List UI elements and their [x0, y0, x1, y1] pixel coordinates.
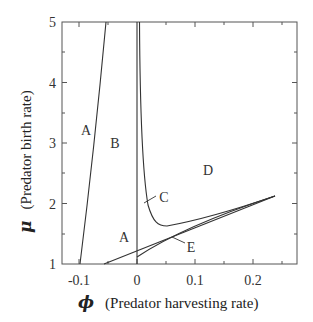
x-axis-label: ϕ (Predator harvesting rate): [78, 292, 258, 312]
region-label-c: C: [159, 190, 168, 205]
mu-symbol: μ: [15, 221, 35, 233]
x-axis-text: (Predator harvesting rate): [105, 295, 258, 312]
y-axis-text: (Predator birth rate): [18, 90, 35, 209]
y-tick-label: 1: [49, 257, 56, 272]
bifurcation-chart: -0.1 0 0.1 0.2 1 2 3 4 5 A B C D A E ϕ (…: [0, 0, 313, 322]
y-axis-label: μ (Predator birth rate): [15, 90, 35, 233]
y-tick-label: 2: [49, 197, 56, 212]
e-leader-line: [172, 237, 185, 243]
c-leader-line: [144, 196, 156, 203]
y-ticks: [62, 52, 297, 234]
y-tick-label: 4: [49, 76, 56, 91]
plot-frame: [62, 22, 297, 264]
region-label-d: D: [203, 163, 213, 178]
region-label-a-lower: A: [119, 230, 130, 245]
region-label-e: E: [187, 240, 196, 255]
x-tick-label: 0: [134, 273, 141, 288]
phi-symbol: ϕ: [78, 292, 94, 312]
curve-e: [137, 196, 275, 257]
x-tick-label: 0.1: [186, 273, 204, 288]
x-tick-label: 0.2: [244, 273, 262, 288]
y-tick-label: 5: [49, 15, 56, 30]
y-tick-label: 3: [49, 136, 56, 151]
curve-a-b-boundary: [80, 22, 106, 264]
region-label-b: B: [110, 136, 119, 151]
x-tick-label: -0.1: [68, 273, 90, 288]
region-label-a-upper: A: [81, 123, 92, 138]
